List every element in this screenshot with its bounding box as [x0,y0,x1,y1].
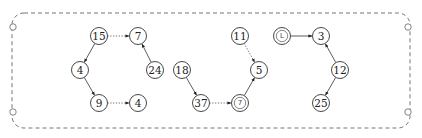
node-label: 18 [175,64,188,76]
node-label: 37 [194,97,207,109]
node-label: 5 [256,64,263,76]
hook-top-left-icon [10,24,16,30]
graph-node: 24 [147,62,164,79]
node-label: 7 [238,99,242,107]
dashed-frame [10,13,411,128]
graph-node: 25 [313,95,330,112]
graph-node: 12 [332,62,349,79]
edge-n18-to-n37 [186,77,196,95]
node-label: 3 [318,30,325,42]
graph-node: 37 [193,95,210,112]
edge-n12-to-n25 [325,77,335,95]
edge-n15-to-n4a [84,43,94,62]
graph-node: 3 [313,28,330,45]
node-label: 12 [333,64,346,76]
node-label: 24 [148,64,162,76]
node-label: 25 [314,97,327,109]
node-label: 9 [96,97,103,109]
node-label: 7 [135,30,142,42]
edge-n12-to-n3 [325,44,335,63]
nodes: 1574249418377511L31225 [72,28,349,112]
hook-bottom-right-icon [405,109,411,115]
graph-node: 9 [91,95,108,112]
graph-diagram: 1574249418377511L31225 [0,0,422,138]
node-label: 15 [92,30,105,42]
edge-n11-to-n5 [244,43,254,62]
graph-node: 11 [232,28,249,45]
graph-node: 7 [130,28,147,45]
graph-node: 4 [72,62,89,79]
graph-node: 7 [232,95,249,112]
graph-node: L [274,28,291,45]
node-label: 11 [233,30,246,42]
node-label: 4 [77,64,84,76]
hook-top-right-icon [405,24,411,30]
graph-node: 15 [91,28,108,45]
graph-node: 5 [251,62,268,79]
edge-n24-to-n7a [142,44,151,62]
graph-node: 4 [130,95,147,112]
edges [84,36,336,103]
edge-n4a-to-n9 [84,77,94,95]
hook-bottom-left-icon [10,109,16,115]
node-label: L [280,32,284,40]
node-label: 4 [135,97,142,109]
edge-n7c-to-n5 [244,78,254,96]
graph-node: 18 [174,62,191,79]
